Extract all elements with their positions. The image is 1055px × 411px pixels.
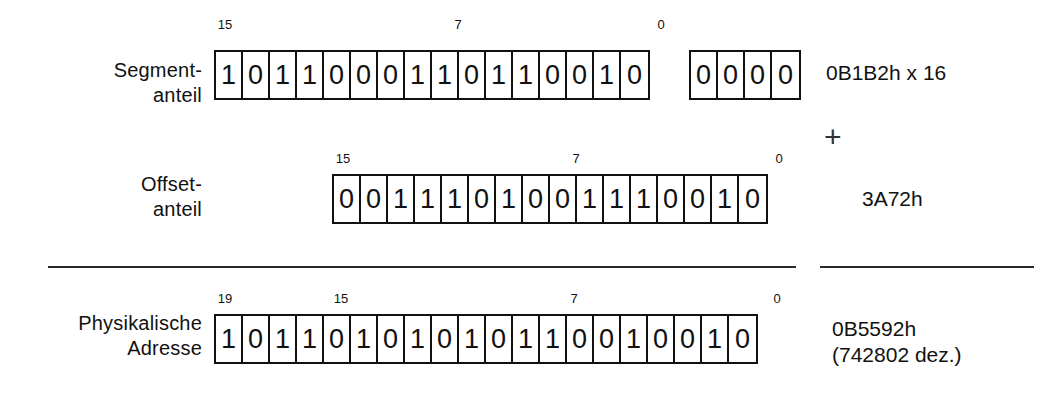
bitcell-physical-5: 1 [351,316,378,362]
bitcell-offset-0: 0 [334,176,361,222]
value-segment: 0B1B2h x 16 [826,60,946,86]
bit-index-segment-15: 15 [210,18,240,31]
value-physical: 0B5592h (742802 dez.) [832,316,962,368]
bitcell-offset-12: 0 [658,176,685,222]
bitcell-physical-7: 1 [405,316,432,362]
bit-index-offset-0: 0 [764,152,794,165]
bit-index-segment-7: 7 [443,18,473,31]
bitcell-physical-19: 0 [729,316,756,362]
bitcell-segment-15: 0 [621,52,648,98]
bitcell-offset-15: 0 [739,176,766,222]
bitcell-segment-7: 1 [405,52,432,98]
bitcell-offset-9: 1 [577,176,604,222]
bitfield-segment-main: 1011000110110010 [214,50,650,100]
bit-index-physical-0: 0 [762,292,792,305]
bitcell-segment-zero-2: 0 [745,52,772,98]
bitcell-physical-6: 0 [378,316,405,362]
bitcell-physical-18: 1 [702,316,729,362]
bitcell-physical-10: 0 [486,316,513,362]
bitcell-physical-0: 1 [216,316,243,362]
bitcell-physical-14: 0 [594,316,621,362]
bitcell-offset-7: 0 [523,176,550,222]
bitcell-segment-6: 0 [378,52,405,98]
bitcell-segment-8: 1 [432,52,459,98]
bitcell-offset-10: 1 [604,176,631,222]
bitcell-physical-8: 0 [432,316,459,362]
bitcell-physical-4: 0 [324,316,351,362]
row-label-physical: Physikalische Adresse [8,311,202,361]
bitcell-physical-13: 0 [567,316,594,362]
bitcell-physical-1: 0 [243,316,270,362]
bitcell-segment-zero-0: 0 [691,52,718,98]
value-offset: 3A72h [862,186,923,212]
bitcell-offset-2: 1 [388,176,415,222]
bitcell-physical-17: 0 [675,316,702,362]
bitcell-offset-5: 0 [469,176,496,222]
bitcell-offset-8: 0 [550,176,577,222]
bitfield-segment-shift-zeros: 0000 [689,50,801,100]
bitcell-offset-14: 1 [712,176,739,222]
bitcell-segment-1: 0 [243,52,270,98]
sum-rule-right [820,266,1034,268]
bitcell-segment-zero-3: 0 [772,52,799,98]
bitcell-physical-3: 1 [297,316,324,362]
bitfield-physical-main: 10110101010110010010 [214,314,758,364]
bitcell-segment-zero-1: 0 [718,52,745,98]
bitcell-segment-12: 0 [540,52,567,98]
bitcell-physical-15: 1 [621,316,648,362]
bitcell-offset-1: 0 [361,176,388,222]
bitcell-offset-11: 1 [631,176,658,222]
bit-index-physical-15: 15 [326,292,356,305]
bitcell-segment-2: 1 [270,52,297,98]
bitcell-physical-16: 0 [648,316,675,362]
operator-plus: + [824,122,842,152]
bit-index-physical-19: 19 [210,292,240,305]
bit-index-segment-0: 0 [646,18,676,31]
sum-rule-left [48,266,796,268]
bitfield-offset-main: 0011101001110010 [332,174,768,224]
bit-index-offset-15: 15 [328,152,358,165]
bitcell-offset-6: 1 [496,176,523,222]
bitcell-physical-9: 1 [459,316,486,362]
address-calculation-figure: Segment- anteil 15 7 0 1011000110110010 … [0,0,1055,411]
bitcell-physical-12: 1 [540,316,567,362]
bitcell-segment-5: 0 [351,52,378,98]
bitcell-segment-4: 0 [324,52,351,98]
bitcell-segment-14: 1 [594,52,621,98]
bitcell-physical-11: 1 [513,316,540,362]
bitcell-offset-3: 1 [415,176,442,222]
bitcell-segment-10: 1 [486,52,513,98]
row-label-segment: Segment- anteil [24,58,202,108]
bitcell-segment-0: 1 [216,52,243,98]
bitcell-segment-9: 0 [459,52,486,98]
bitcell-offset-13: 0 [685,176,712,222]
bit-index-physical-7: 7 [559,292,589,305]
bitcell-segment-3: 1 [297,52,324,98]
bitcell-physical-2: 1 [270,316,297,362]
bit-index-offset-7: 7 [561,152,591,165]
bitcell-offset-4: 1 [442,176,469,222]
row-label-offset: Offset- anteil [24,172,202,222]
bitcell-segment-11: 1 [513,52,540,98]
bitcell-segment-13: 0 [567,52,594,98]
